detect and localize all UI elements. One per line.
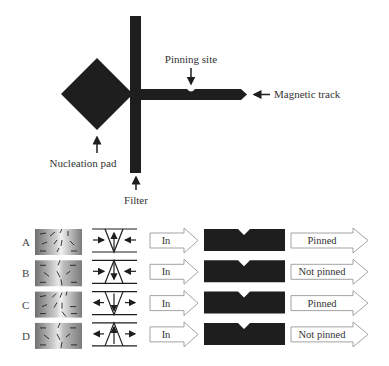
pinning-site-label: Pinning site bbox=[165, 53, 217, 65]
track-segment bbox=[204, 292, 285, 314]
magnetic-track-label: Magnetic track bbox=[274, 88, 341, 100]
result-label: Not pinned bbox=[299, 329, 347, 340]
magnetization-image bbox=[35, 229, 82, 255]
wall-diagram bbox=[92, 229, 137, 252]
track-segment bbox=[204, 229, 285, 251]
result-arrow: Not pinned bbox=[291, 322, 368, 347]
row-d: D In Not pinned bbox=[22, 322, 368, 349]
row-b: B In Not pinned bbox=[22, 259, 368, 286]
row-label: A bbox=[22, 236, 30, 248]
svg-text:In: In bbox=[162, 329, 171, 340]
track-segment bbox=[204, 323, 285, 345]
track-segment bbox=[204, 260, 285, 282]
svg-text:In: In bbox=[162, 266, 171, 277]
svg-text:In: In bbox=[162, 235, 171, 246]
row-label: C bbox=[22, 299, 29, 311]
magnetization-image bbox=[35, 292, 82, 318]
result-label: Pinned bbox=[307, 298, 337, 309]
filter-label: Filter bbox=[124, 194, 148, 206]
wall-diagram bbox=[92, 260, 137, 283]
nucleation-pad-shape bbox=[61, 58, 133, 130]
wall-diagram bbox=[92, 323, 137, 346]
wall-diagram bbox=[92, 292, 137, 315]
magnetic-track-shape bbox=[141, 89, 247, 100]
row-label: B bbox=[22, 267, 29, 279]
nucleation-pad-label: Nucleation pad bbox=[50, 157, 117, 169]
input-arrow: In bbox=[150, 228, 198, 253]
row-c: C In Pinned bbox=[22, 291, 368, 318]
input-arrow: In bbox=[150, 259, 198, 284]
svg-text:In: In bbox=[162, 298, 171, 309]
input-arrow: In bbox=[150, 322, 198, 347]
result-arrow: Not pinned bbox=[291, 259, 368, 284]
result-label: Not pinned bbox=[299, 266, 347, 277]
result-arrow: Pinned bbox=[291, 291, 368, 316]
row-a: A In Pinned bbox=[22, 228, 368, 255]
diagram-canvas: Pinning site Magnetic track Nucleation p… bbox=[0, 0, 389, 366]
magnetization-image bbox=[35, 260, 82, 286]
device-structure bbox=[61, 16, 247, 173]
input-arrow: In bbox=[150, 291, 198, 316]
row-label: D bbox=[22, 330, 30, 342]
magnetization-image bbox=[35, 323, 82, 349]
result-arrow: Pinned bbox=[291, 228, 368, 253]
result-label: Pinned bbox=[307, 235, 337, 246]
